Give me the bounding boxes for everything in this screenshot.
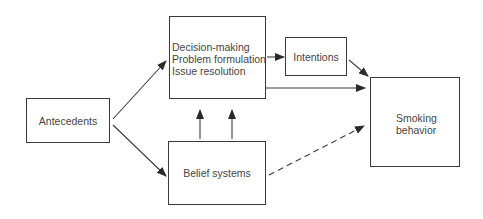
node-decision-line-2: Problem formulation <box>172 53 266 65</box>
node-smoking-behavior: Smoking behavior <box>370 77 460 167</box>
node-decision-line-3: Issue resolution <box>172 65 266 77</box>
node-antecedents: Antecedents <box>26 98 110 143</box>
node-intentions: Intentions <box>285 37 347 76</box>
node-antecedents-label: Antecedents <box>39 115 97 127</box>
arrow-antecedents-to-decision <box>113 61 166 119</box>
node-decision-line-1: Decision-making <box>172 41 266 53</box>
arrow-antecedents-to-belief <box>113 125 166 176</box>
node-intentions-label: Intentions <box>293 51 339 63</box>
node-belief-label: Belief systems <box>183 167 251 179</box>
node-decision-lines: Decision-making Problem formulation Issu… <box>172 41 266 77</box>
node-belief-systems: Belief systems <box>168 141 266 205</box>
arrow-intentions-to-smoking <box>349 60 368 76</box>
arrow-belief-to-smoking-dashed <box>269 126 364 175</box>
node-smoking-line-2: behavior <box>396 124 437 136</box>
node-smoking-line-1: Smoking <box>396 112 437 124</box>
node-decision-making: Decision-making Problem formulation Issu… <box>169 16 266 99</box>
